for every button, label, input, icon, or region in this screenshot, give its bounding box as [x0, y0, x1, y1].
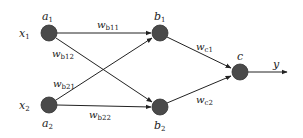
neural-network-diagram: a1 a2 b1 b2 c x1 x2 y wb11 wb12 wb21 wb2… [0, 0, 303, 138]
node-a2 [41, 97, 57, 113]
node-b1 [152, 25, 168, 41]
weight-wb11: wb11 [97, 19, 119, 32]
edges [56, 33, 287, 107]
label-x1: x1 [19, 27, 30, 41]
label-x2: x2 [19, 99, 30, 113]
node-b2 [152, 99, 168, 115]
label-a2: a2 [42, 117, 53, 131]
edge-a2-b2 [57, 105, 151, 107]
weight-wb12: wb12 [52, 48, 74, 61]
label-a1: a1 [42, 10, 53, 24]
label-b1: b1 [154, 10, 166, 24]
weight-wb22: wb22 [89, 109, 111, 122]
nodes [41, 25, 248, 115]
label-b2: b2 [154, 119, 166, 133]
node-c [232, 64, 248, 80]
label-c: c [237, 50, 243, 63]
weight-wb21: wb21 [53, 78, 75, 91]
weight-wc2: wc2 [196, 94, 213, 107]
label-y: y [272, 58, 280, 71]
node-a1 [41, 25, 57, 41]
